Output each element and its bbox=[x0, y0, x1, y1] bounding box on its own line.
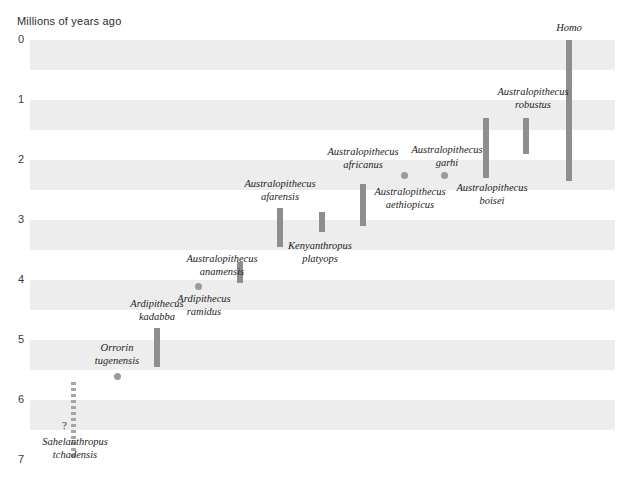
taxon-label-line: boisei bbox=[456, 195, 527, 208]
y-axis-tick-2: 2 bbox=[0, 153, 24, 165]
taxon-label-line: Australopithecus bbox=[327, 146, 398, 159]
taxon-point-australopithecus-aethiopicus bbox=[401, 172, 408, 179]
taxon-label-line: afarensis bbox=[244, 191, 315, 204]
grid-band bbox=[30, 40, 615, 70]
taxon-point-orrorin-tugenensis bbox=[114, 373, 121, 380]
y-axis-tick-4: 4 bbox=[0, 273, 24, 285]
taxon-label-kenyanthropus-platyops: Kenyanthropusplatyops bbox=[288, 240, 352, 265]
y-axis-tick-7: 7 bbox=[0, 453, 24, 465]
grid-band bbox=[30, 280, 615, 310]
taxon-label-line: platyops bbox=[288, 253, 352, 266]
taxon-label-line: garhi bbox=[411, 157, 482, 170]
taxon-label-ardipithecus-ramidus: Ardipithecusramidus bbox=[177, 293, 230, 318]
taxon-label-sahelanthropus-tchadensis: Sahelanthropustchadensis bbox=[42, 436, 108, 461]
taxon-label-line: Ardipithecus bbox=[177, 293, 230, 306]
taxon-label-line: Homo bbox=[556, 22, 582, 35]
taxon-label-line: Australopithecus bbox=[411, 144, 482, 157]
taxon-label-australopithecus-robustus: Australopithecusrobustus bbox=[497, 86, 568, 111]
taxon-label-line: Sahelanthropus bbox=[42, 436, 108, 449]
taxon-label-line: Australopithecus bbox=[186, 253, 257, 266]
taxon-label-line: Australopithecus bbox=[374, 186, 445, 199]
taxon-range-bar-kenyanthropus-platyops bbox=[319, 212, 325, 232]
y-axis-tick-3: 3 bbox=[0, 213, 24, 225]
taxon-label-line: africanus bbox=[327, 159, 398, 172]
uncertainty-marker: ? bbox=[62, 419, 67, 431]
taxon-label-line: tchadensis bbox=[42, 449, 108, 462]
taxon-label-line: robustus bbox=[497, 99, 568, 112]
taxon-range-bar-australopithecus-boisei bbox=[483, 118, 489, 178]
taxon-label-australopithecus-africanus: Australopithecusafricanus bbox=[327, 146, 398, 171]
taxon-label-line: Australopithecus bbox=[497, 86, 568, 99]
taxon-label-line: Australopithecus bbox=[456, 182, 527, 195]
taxon-label-line: aethiopicus bbox=[374, 199, 445, 212]
taxon-label-ardipithecus-kadabba: Ardipithecuskadabba bbox=[130, 298, 183, 323]
taxon-label-homo: Homo bbox=[556, 22, 582, 35]
taxon-label-australopithecus-aethiopicus: Australopithecusaethiopicus bbox=[374, 186, 445, 211]
taxon-label-line: anamensis bbox=[186, 266, 257, 279]
taxon-label-line: tugenensis bbox=[95, 355, 139, 368]
taxon-range-bar-australopithecus-afarensis bbox=[277, 208, 283, 247]
taxon-label-australopithecus-afarensis: Australopithecusafarensis bbox=[244, 178, 315, 203]
taxon-label-australopithecus-garhi: Australopithecusgarhi bbox=[411, 144, 482, 169]
y-axis-title: Millions of years ago bbox=[17, 15, 121, 27]
taxon-label-australopithecus-anamensis: Australopithecusanamensis bbox=[186, 253, 257, 278]
hominin-timeline-chart: Millions of years ago 01234567 Sahelanth… bbox=[0, 0, 628, 482]
taxon-range-bar-australopithecus-africanus bbox=[360, 184, 366, 226]
grid-band bbox=[30, 400, 615, 430]
taxon-label-line: Orrorin bbox=[95, 342, 139, 355]
taxon-point-australopithecus-garhi bbox=[441, 172, 448, 179]
y-axis-tick-5: 5 bbox=[0, 333, 24, 345]
taxon-label-line: kadabba bbox=[130, 311, 183, 324]
y-axis-tick-1: 1 bbox=[0, 93, 24, 105]
taxon-range-bar-ardipithecus-kadabba bbox=[154, 328, 160, 367]
taxon-label-line: Australopithecus bbox=[244, 178, 315, 191]
y-axis-tick-0: 0 bbox=[0, 33, 24, 45]
taxon-label-line: Ardipithecus bbox=[130, 298, 183, 311]
taxon-label-australopithecus-boisei: Australopithecusboisei bbox=[456, 182, 527, 207]
taxon-label-line: ramidus bbox=[177, 306, 230, 319]
taxon-point-ardipithecus-ramidus bbox=[195, 283, 202, 290]
taxon-label-orrorin-tugenensis: Orrorintugenensis bbox=[95, 342, 139, 367]
y-axis-tick-6: 6 bbox=[0, 393, 24, 405]
taxon-range-bar-australopithecus-robustus bbox=[523, 118, 529, 154]
taxon-label-line: Kenyanthropus bbox=[288, 240, 352, 253]
